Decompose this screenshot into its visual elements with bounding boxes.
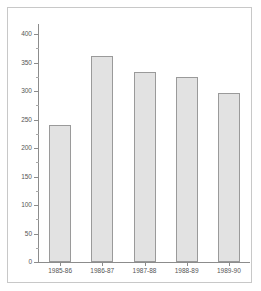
y-axis-tick-label: 50 bbox=[0, 230, 32, 238]
y-axis-minor-tick bbox=[36, 191, 39, 192]
y-axis-tick bbox=[34, 91, 39, 92]
y-axis-tick-label-text: 0 bbox=[2, 258, 32, 265]
y-axis-minor-tick bbox=[36, 219, 39, 220]
x-axis-tick bbox=[187, 262, 188, 266]
y-axis-minor-tick bbox=[36, 48, 39, 49]
y-axis-tick-label: 300 bbox=[0, 87, 32, 95]
y-axis-tick bbox=[34, 120, 39, 121]
y-axis-tick-label: 100 bbox=[0, 201, 32, 209]
bar bbox=[176, 77, 198, 262]
y-axis-tick-label: 200 bbox=[0, 144, 32, 152]
bar bbox=[134, 72, 156, 262]
bar bbox=[49, 125, 71, 262]
y-axis-tick-label: 350 bbox=[0, 59, 32, 67]
bar bbox=[218, 93, 240, 262]
y-axis-tick bbox=[34, 63, 39, 64]
x-axis-tick-label: 1986-87 bbox=[78, 267, 126, 275]
x-axis-tick bbox=[229, 262, 230, 266]
y-axis-line bbox=[38, 24, 39, 262]
y-axis-tick bbox=[34, 234, 39, 235]
y-axis-minor-tick bbox=[36, 77, 39, 78]
y-axis-tick-label: 250 bbox=[0, 116, 32, 124]
plot-area: 050100150200250300350400 1985-861986-871… bbox=[0, 0, 261, 291]
y-axis-tick bbox=[34, 148, 39, 149]
y-axis-tick-label: 150 bbox=[0, 173, 32, 181]
y-axis-tick-label-text: 300 bbox=[2, 87, 32, 94]
y-axis-tick-label-text: 150 bbox=[2, 173, 32, 180]
bar-chart-figure: 050100150200250300350400 1985-861986-871… bbox=[0, 0, 261, 291]
x-axis-tick bbox=[60, 262, 61, 266]
y-axis-tick-label-text: 400 bbox=[2, 30, 32, 37]
y-axis-minor-tick bbox=[36, 162, 39, 163]
y-axis-tick bbox=[34, 262, 39, 263]
x-axis-tick-label: 1989-90 bbox=[205, 267, 253, 275]
y-axis-minor-tick bbox=[36, 248, 39, 249]
y-axis-minor-tick bbox=[36, 105, 39, 106]
x-axis-tick bbox=[102, 262, 103, 266]
x-axis-tick bbox=[145, 262, 146, 266]
y-axis-tick bbox=[34, 177, 39, 178]
y-axis-tick bbox=[34, 205, 39, 206]
y-axis-minor-tick bbox=[36, 134, 39, 135]
y-axis-tick-label-text: 50 bbox=[2, 230, 32, 237]
y-axis-tick-label-text: 100 bbox=[2, 201, 32, 208]
x-axis-tick-label: 1988-89 bbox=[163, 267, 211, 275]
bar bbox=[91, 56, 113, 262]
y-axis-tick-label-text: 200 bbox=[2, 144, 32, 151]
x-axis-tick-label: 1987-88 bbox=[121, 267, 169, 275]
y-axis-tick-label: 400 bbox=[0, 30, 32, 38]
y-axis-tick-label: 0 bbox=[0, 258, 32, 266]
y-axis-tick-label-text: 350 bbox=[2, 59, 32, 66]
y-axis-tick bbox=[34, 34, 39, 35]
x-axis-tick-label: 1985-86 bbox=[36, 267, 84, 275]
y-axis-tick-label-text: 250 bbox=[2, 116, 32, 123]
